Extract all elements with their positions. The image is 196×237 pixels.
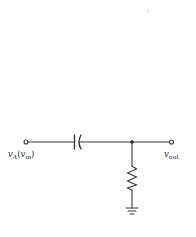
circuit-diagram <box>0 0 196 237</box>
ground-icon <box>126 208 138 214</box>
output-terminal-icon <box>170 140 174 144</box>
output-label-sub: out <box>169 153 179 160</box>
input-terminal-icon <box>24 140 28 144</box>
resistor-icon <box>128 166 137 190</box>
input-voltage-label: vA(vin) <box>8 150 34 160</box>
output-voltage-label: vout <box>164 150 179 160</box>
input-label-paren-close: ) <box>31 149 34 159</box>
scan-artifact <box>147 9 149 13</box>
